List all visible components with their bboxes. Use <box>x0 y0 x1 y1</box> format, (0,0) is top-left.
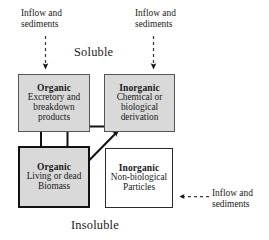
inflow-label-right: Inflow and sediments <box>212 188 253 210</box>
inflow-label-line2: sediments <box>21 19 62 30</box>
insoluble-heading: Insoluble <box>71 219 119 231</box>
box-organic-soluble: Organic Excretory and breakdown products <box>18 74 90 132</box>
inflow-label-line2: sediments <box>135 19 176 30</box>
inflow-label-top-right: Inflow and sediments <box>135 8 176 30</box>
box-inorganic-soluble: Inorganic Chemical or biological derivat… <box>104 74 175 132</box>
inflow-label-line1: Inflow and <box>135 8 176 19</box>
inflow-label-line2: sediments <box>212 199 253 210</box>
inflow-label-top-left: Inflow and sediments <box>21 8 62 30</box>
box-body-line: Biomass <box>38 182 70 192</box>
box-body-line: Particles <box>123 183 155 193</box>
box-body-line: derivation <box>121 113 159 123</box>
box-organic-insoluble: Organic Living or dead Biomass <box>18 146 90 208</box>
diagram-canvas: Soluble Insoluble Inflow and sediments I… <box>0 0 269 240</box>
soluble-heading: Soluble <box>74 46 113 58</box>
box-body-line: products <box>38 113 70 123</box>
inflow-label-line1: Inflow and <box>21 8 62 19</box>
box-inorganic-insoluble: Inorganic Non-biological Particles <box>105 148 173 208</box>
inflow-label-line1: Inflow and <box>212 188 253 199</box>
